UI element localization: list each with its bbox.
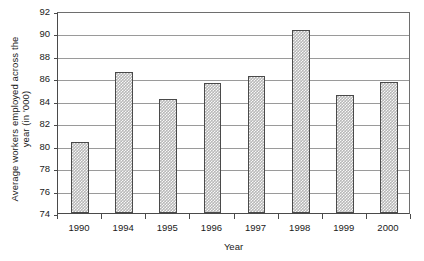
bar[interactable]: [159, 99, 177, 213]
x-axis-tick-mark: [410, 214, 411, 219]
y-axis-tick-mark: [54, 13, 58, 14]
bar-slot: [235, 13, 279, 213]
x-axis-tick-marks: [57, 214, 410, 220]
y-axis-tick-label: 92: [22, 7, 50, 17]
bar[interactable]: [292, 30, 310, 213]
x-axis-tick-mark: [278, 214, 279, 219]
y-axis-tick-mark: [54, 58, 58, 59]
x-axis-tick-mark: [189, 214, 190, 219]
y-axis-tick-label: 80: [22, 142, 50, 152]
y-axis-tick-label: 90: [22, 29, 50, 39]
y-axis-tick-label: 76: [22, 187, 50, 197]
y-axis-tick-mark: [54, 193, 58, 194]
x-axis-tick-mark: [101, 214, 102, 219]
x-axis-tick-mark: [57, 214, 58, 219]
bar[interactable]: [248, 76, 266, 213]
x-axis-tick-label: 1995: [157, 222, 178, 234]
y-axis-tick-mark: [54, 103, 58, 104]
x-axis-tick-mark: [145, 214, 146, 219]
bar-slot: [323, 13, 367, 213]
bar-slot: [58, 13, 102, 213]
x-axis-tick-label: 2000: [377, 222, 398, 234]
bars: [58, 13, 409, 213]
y-axis-tick-label: 84: [22, 97, 50, 107]
x-axis-tick-label: 1994: [113, 222, 134, 234]
bar-slot: [146, 13, 190, 213]
bar-slot: [102, 13, 146, 213]
y-axis-tick-mark: [54, 80, 58, 81]
y-axis-tick-mark: [54, 125, 58, 126]
y-axis-tick-label: 74: [22, 209, 50, 219]
bar-slot: [367, 13, 411, 213]
x-axis-tick-label: 1997: [245, 222, 266, 234]
x-axis-tick-mark: [322, 214, 323, 219]
y-axis-tick-mark: [54, 170, 58, 171]
y-axis-tick-mark: [54, 35, 58, 36]
y-axis-tick-mark: [54, 148, 58, 149]
x-axis-tick-mark: [366, 214, 367, 219]
y-axis-tick-label: 88: [22, 52, 50, 62]
bar[interactable]: [71, 142, 89, 213]
bar[interactable]: [204, 83, 222, 213]
x-axis-tick-mark: [234, 214, 235, 219]
bar[interactable]: [380, 82, 398, 213]
x-axis-tick-label: 1999: [333, 222, 354, 234]
x-axis-tick-label: 1990: [68, 222, 89, 234]
bar-chart: Average workers employed across the year…: [0, 0, 424, 261]
y-axis-tick-label: 78: [22, 164, 50, 174]
y-axis-tick-label: 86: [22, 74, 50, 84]
bar[interactable]: [336, 95, 354, 213]
y-axis-tick-labels: 92908886848280787674: [22, 12, 50, 214]
y-axis-title-line-1: Average workers employed across the: [9, 37, 21, 202]
x-axis-tick-labels: 19901994199519961997199819992000: [57, 222, 410, 236]
y-axis-tick-label: 82: [22, 119, 50, 129]
plot-area: [57, 12, 410, 214]
x-axis-tick-label: 1998: [289, 222, 310, 234]
x-axis-title: Year: [57, 241, 410, 253]
bar-slot: [190, 13, 234, 213]
bar[interactable]: [115, 72, 133, 213]
bar-slot: [279, 13, 323, 213]
x-axis-tick-label: 1996: [201, 222, 222, 234]
